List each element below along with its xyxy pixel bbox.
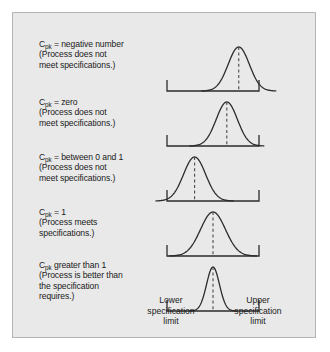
cpk-label-line: requires.)	[39, 291, 123, 301]
cpk-symbol-subscript: pk	[45, 101, 52, 108]
cpk-label-text: (Process meets	[39, 217, 97, 227]
cpk-label-text: = negative number	[52, 39, 124, 49]
cpk-symbol-subscript: pk	[45, 211, 52, 218]
cpk-label-cpk-greater-than-1: Cpk greater than 1(Process is better tha…	[39, 260, 123, 302]
distribution-plot-cpk-zero	[125, 90, 316, 152]
cpk-label-line: Cpk = zero	[39, 97, 115, 107]
cpk-label-text: = 1	[52, 207, 66, 217]
cpk-label-text: greater than 1	[52, 260, 106, 270]
cpk-label-line: (Process is better than	[39, 270, 123, 280]
cpk-label-text: (Process does not	[39, 162, 107, 172]
upper-caption-line-1: Upper	[216, 295, 300, 306]
figure-panel: Cpk = negative number(Process does notme…	[12, 12, 316, 338]
cpk-symbol-subscript: pk	[45, 43, 52, 50]
cpk-label-cpk-equals-1: Cpk = 1(Process meetsspecifications.)	[39, 207, 97, 238]
upper-specification-limit-caption: Upper specification limit	[216, 295, 300, 327]
cpk-label-line: (Process does not	[39, 107, 115, 117]
cpk-label-line: (Process does not	[39, 162, 123, 172]
cpk-symbol-subscript: pk	[45, 156, 52, 163]
cpk-label-text: = zero	[52, 97, 78, 107]
cpk-label-text: meet specifications.)	[39, 118, 115, 128]
cpk-label-text: specifications.)	[39, 228, 94, 238]
cpk-label-line: (Process does not	[39, 49, 124, 59]
specification-limit-captions: Lower specification limit Upper specific…	[125, 295, 316, 337]
cpk-label-text: meet specifications.)	[39, 60, 115, 70]
cpk-label-line: meet specifications.)	[39, 118, 115, 128]
cpk-label-line: Cpk greater than 1	[39, 260, 123, 270]
cpk-label-line: Cpk = between 0 and 1	[39, 152, 123, 162]
cpk-label-line: meet specifications.)	[39, 173, 123, 183]
cpk-label-text: the specification	[39, 281, 99, 291]
cpk-label-line: Cpk = negative number	[39, 39, 124, 49]
cpk-label-line: (Process meets	[39, 217, 97, 227]
cpk-label-text: meet specifications.)	[39, 173, 115, 183]
cpk-label-cpk-negative: Cpk = negative number(Process does notme…	[39, 39, 124, 70]
distribution-plot-cpk-negative	[125, 35, 316, 97]
lower-caption-line-1: Lower	[129, 295, 213, 306]
lower-specification-limit-caption: Lower specification limit	[129, 295, 213, 327]
upper-caption-line-3: limit	[216, 316, 300, 327]
cpk-label-text: (Process does not	[39, 49, 107, 59]
cpk-label-line: specifications.)	[39, 228, 97, 238]
cpk-label-line: the specification	[39, 281, 123, 291]
cpk-label-line: meet specifications.)	[39, 60, 124, 70]
cpk-label-text: = between 0 and 1	[52, 152, 124, 162]
cpk-symbol-subscript: pk	[45, 264, 52, 271]
cpk-label-cpk-between-0-and-1: Cpk = between 0 and 1(Process does notme…	[39, 152, 123, 183]
lower-caption-line-2: specification	[129, 306, 213, 317]
cpk-label-cpk-zero: Cpk = zero(Process does notmeet specific…	[39, 97, 115, 128]
distribution-plot-cpk-between-0-and-1	[125, 145, 316, 207]
distribution-plot-cpk-equals-1	[125, 200, 316, 262]
upper-caption-line-2: specification	[216, 306, 300, 317]
cpk-label-text: requires.)	[39, 291, 74, 301]
cpk-label-text: (Process is better than	[39, 270, 123, 280]
cpk-label-line: Cpk = 1	[39, 207, 97, 217]
lower-caption-line-3: limit	[129, 316, 213, 327]
cpk-label-text: (Process does not	[39, 107, 107, 117]
